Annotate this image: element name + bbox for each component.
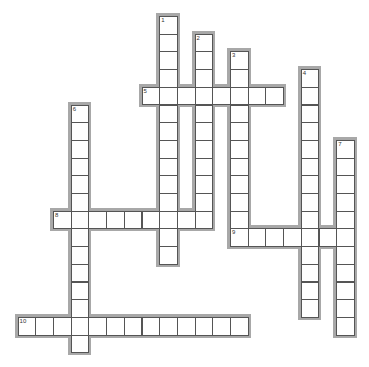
crossword-cell[interactable]: 8 <box>53 211 72 230</box>
crossword-cell[interactable] <box>195 193 214 212</box>
crossword-cell[interactable] <box>177 317 196 336</box>
crossword-cell[interactable] <box>71 158 90 177</box>
crossword-cell[interactable] <box>195 211 214 230</box>
crossword-cell[interactable] <box>159 51 178 70</box>
crossword-cell[interactable] <box>195 69 214 88</box>
crossword-cell[interactable] <box>71 246 90 265</box>
crossword-cell[interactable] <box>212 87 231 106</box>
crossword-cell[interactable] <box>230 175 249 194</box>
crossword-cell[interactable]: 1 <box>159 16 178 35</box>
crossword-cell[interactable] <box>336 211 355 230</box>
crossword-cell[interactable] <box>212 317 231 336</box>
crossword-cell[interactable] <box>35 317 54 336</box>
crossword-cell[interactable] <box>124 317 143 336</box>
crossword-cell[interactable] <box>159 228 178 247</box>
crossword-cell[interactable] <box>71 140 90 159</box>
crossword-cell[interactable] <box>301 175 320 194</box>
crossword-cell[interactable] <box>71 299 90 318</box>
crossword-cell[interactable] <box>230 122 249 141</box>
crossword-cell[interactable] <box>159 175 178 194</box>
crossword-cell[interactable] <box>301 299 320 318</box>
crossword-cell[interactable] <box>230 317 249 336</box>
crossword-cell[interactable] <box>265 228 284 247</box>
crossword-cell[interactable]: 9 <box>230 228 249 247</box>
crossword-cell[interactable] <box>248 228 267 247</box>
crossword-cell[interactable] <box>177 87 196 106</box>
crossword-cell[interactable] <box>301 87 320 106</box>
crossword-cell[interactable] <box>159 69 178 88</box>
crossword-cell[interactable] <box>195 87 214 106</box>
crossword-cell[interactable] <box>336 282 355 301</box>
crossword-cell[interactable] <box>106 211 125 230</box>
crossword-cell[interactable] <box>336 193 355 212</box>
crossword-cell[interactable] <box>195 317 214 336</box>
crossword-cell[interactable] <box>301 122 320 141</box>
crossword-cell[interactable]: 5 <box>142 87 161 106</box>
crossword-cell[interactable] <box>195 158 214 177</box>
crossword-cell[interactable] <box>159 87 178 106</box>
crossword-cell[interactable] <box>319 228 338 247</box>
crossword-cell[interactable]: 6 <box>71 105 90 124</box>
crossword-cell[interactable] <box>124 211 143 230</box>
crossword-cell[interactable] <box>142 317 161 336</box>
crossword-cell[interactable] <box>142 211 161 230</box>
crossword-cell[interactable] <box>336 299 355 318</box>
crossword-cell[interactable] <box>230 140 249 159</box>
crossword-cell[interactable] <box>336 175 355 194</box>
crossword-cell[interactable] <box>159 140 178 159</box>
crossword-cell[interactable] <box>283 228 302 247</box>
crossword-cell[interactable] <box>159 158 178 177</box>
crossword-cell[interactable] <box>248 87 267 106</box>
crossword-cell[interactable] <box>88 211 107 230</box>
crossword-cell[interactable] <box>159 105 178 124</box>
crossword-cell[interactable] <box>159 34 178 53</box>
crossword-cell[interactable] <box>301 193 320 212</box>
crossword-cell[interactable] <box>265 87 284 106</box>
crossword-cell[interactable] <box>71 211 90 230</box>
crossword-cell[interactable] <box>195 122 214 141</box>
crossword-cell[interactable] <box>195 140 214 159</box>
crossword-cell[interactable] <box>301 140 320 159</box>
crossword-cell[interactable] <box>336 228 355 247</box>
crossword-cell[interactable] <box>71 264 90 283</box>
crossword-cell[interactable] <box>71 317 90 336</box>
crossword-cell[interactable] <box>336 158 355 177</box>
crossword-cell[interactable] <box>159 317 178 336</box>
crossword-cell[interactable]: 10 <box>18 317 37 336</box>
crossword-cell[interactable] <box>230 69 249 88</box>
crossword-cell[interactable]: 2 <box>195 34 214 53</box>
crossword-cell[interactable] <box>159 246 178 265</box>
crossword-cell[interactable] <box>53 317 72 336</box>
crossword-cell[interactable] <box>71 228 90 247</box>
crossword-cell[interactable] <box>195 175 214 194</box>
crossword-cell[interactable] <box>301 211 320 230</box>
crossword-cell[interactable] <box>71 193 90 212</box>
crossword-cell[interactable] <box>159 193 178 212</box>
crossword-cell[interactable] <box>301 158 320 177</box>
crossword-cell[interactable] <box>195 51 214 70</box>
crossword-cell[interactable] <box>336 246 355 265</box>
crossword-cell[interactable] <box>230 105 249 124</box>
crossword-cell[interactable] <box>301 246 320 265</box>
crossword-cell[interactable] <box>301 264 320 283</box>
crossword-cell[interactable] <box>159 211 178 230</box>
crossword-cell[interactable] <box>301 228 320 247</box>
crossword-cell[interactable] <box>301 105 320 124</box>
crossword-cell[interactable] <box>71 175 90 194</box>
crossword-cell[interactable] <box>230 193 249 212</box>
crossword-cell[interactable] <box>230 158 249 177</box>
crossword-cell[interactable] <box>71 282 90 301</box>
crossword-cell[interactable] <box>71 335 90 354</box>
crossword-cell[interactable] <box>71 122 90 141</box>
crossword-cell[interactable]: 7 <box>336 140 355 159</box>
crossword-cell[interactable] <box>106 317 125 336</box>
crossword-cell[interactable]: 4 <box>301 69 320 88</box>
crossword-cell[interactable] <box>230 211 249 230</box>
crossword-cell[interactable] <box>230 87 249 106</box>
crossword-cell[interactable] <box>336 264 355 283</box>
crossword-cell[interactable]: 3 <box>230 51 249 70</box>
crossword-cell[interactable] <box>88 317 107 336</box>
crossword-cell[interactable] <box>336 317 355 336</box>
crossword-cell[interactable] <box>301 282 320 301</box>
crossword-cell[interactable] <box>159 122 178 141</box>
